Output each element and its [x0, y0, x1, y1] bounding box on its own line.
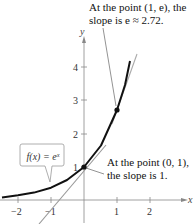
- y-axis-arrow-icon: [82, 36, 86, 43]
- x-tick-label: 1: [114, 206, 119, 217]
- function-label: f(x) = eˣ: [22, 148, 64, 166]
- annotation-line: the slope is 1.: [107, 169, 189, 182]
- x-axis-label: x: [187, 194, 193, 205]
- point-1-e: [114, 107, 119, 112]
- y-ticks: 1 2 3 4: [73, 62, 87, 173]
- annotation-line: slope is e ≈ 2.72.: [89, 14, 186, 27]
- annotation-slope-at-1: At the point (1, e), the slope is e ≈ 2.…: [89, 1, 186, 27]
- annotation-slope-at-0: At the point (0, 1), the slope is 1.: [107, 156, 189, 182]
- point-0-1: [81, 164, 86, 169]
- x-tick-label: 2: [147, 206, 152, 217]
- chart-figure: y x −2 −1 1 2 1 2 3 4: [0, 0, 195, 224]
- annotation-line: At the point (1, e), the: [89, 1, 186, 14]
- x-axis-arrow-icon: [181, 198, 188, 202]
- leader-line-top: [103, 28, 116, 106]
- annotation-line: At the point (0, 1),: [107, 156, 189, 169]
- y-tick-label: 4: [73, 62, 78, 73]
- y-axis-label: y: [79, 26, 85, 37]
- x-tick-label: −2: [11, 206, 22, 217]
- y-tick-label: 2: [73, 129, 78, 140]
- y-tick-label: 3: [73, 95, 78, 106]
- leader-line-bottom: [86, 168, 104, 174]
